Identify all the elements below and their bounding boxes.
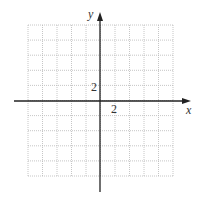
x-axis bbox=[14, 98, 191, 104]
y-axis-label: y bbox=[87, 7, 94, 21]
coordinate-plane: x y 2 2 bbox=[0, 0, 201, 200]
x-axis-label: x bbox=[185, 103, 192, 117]
x-tick-label: 2 bbox=[111, 102, 117, 116]
y-axis bbox=[97, 12, 103, 192]
y-tick-label: 2 bbox=[91, 80, 97, 94]
y-axis-arrow-icon bbox=[97, 12, 103, 21]
